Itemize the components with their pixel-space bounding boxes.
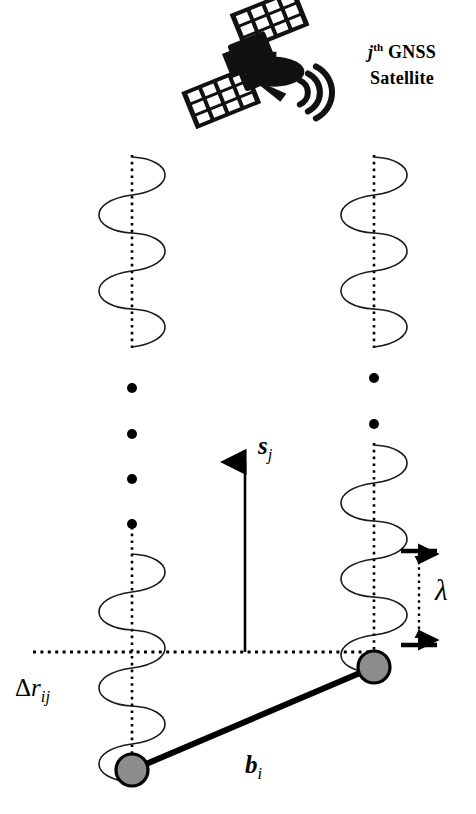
vertical-ellipsis-left bbox=[127, 383, 137, 529]
wavelength-dimension-bracket bbox=[401, 551, 437, 645]
diagram-canvas bbox=[0, 0, 476, 814]
unit-vector-label: sj bbox=[258, 433, 272, 463]
satellite-caption-gnss: GNSS bbox=[383, 42, 436, 62]
receiver-node-upper-right bbox=[358, 651, 390, 683]
gnss-diagram: jth GNSS Satellite sj λ Δrij bi bbox=[0, 0, 476, 814]
delta-glyph: Δ bbox=[15, 674, 31, 701]
satellite-icon bbox=[161, 0, 350, 167]
range-difference-subscript: ij bbox=[41, 687, 50, 706]
unit-vector-subscript: j bbox=[268, 445, 273, 464]
baseline-label: bi bbox=[245, 752, 262, 782]
satellite-caption-th: th bbox=[373, 41, 383, 53]
wavelength-label: λ bbox=[435, 575, 448, 605]
range-difference-symbol: r bbox=[31, 674, 41, 701]
range-difference-label: Δrij bbox=[15, 675, 50, 705]
satellite-caption-line2: Satellite bbox=[336, 69, 468, 88]
baseline-symbol: b bbox=[245, 751, 258, 778]
unit-vector-symbol: s bbox=[258, 432, 268, 459]
vertical-ellipsis-right bbox=[369, 373, 379, 429]
receiver-node-lower-left bbox=[116, 754, 148, 786]
baseline-subscript: i bbox=[258, 764, 263, 783]
satellite-caption: jth GNSS Satellite bbox=[336, 42, 468, 88]
